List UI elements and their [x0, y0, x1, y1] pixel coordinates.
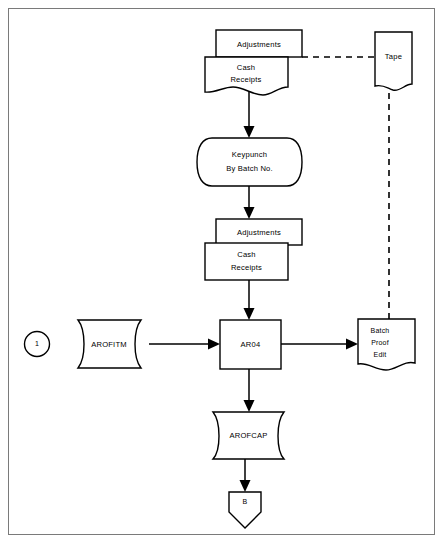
node-adjustments-top[interactable]: Adjustments	[216, 30, 302, 57]
node-label-ar04: AR04	[241, 340, 261, 349]
node-label-adjustments-mid: Adjustments	[237, 228, 281, 237]
edge-keypunch-to-adjustments	[244, 186, 255, 219]
flowchart-canvas: Adjustments Cash Receipts Tape Keypunch …	[0, 0, 445, 545]
edge-ar04-to-batch-proof-edit	[281, 339, 358, 350]
node-tape[interactable]: Tape	[375, 32, 412, 90]
node-label-batch-proof-edit-line1: Batch	[371, 327, 390, 334]
edge-ar04-to-arofcap	[244, 369, 255, 412]
node-label-batch-proof-edit-line3: Edit	[374, 351, 387, 358]
node-arofcap[interactable]: AROFCAP	[213, 412, 284, 459]
node-adjustments-mid[interactable]: Adjustments	[216, 219, 302, 245]
node-label-connector-b: B	[243, 498, 248, 505]
edge-arofcap-to-connector-b	[240, 459, 251, 492]
node-batch-proof-edit[interactable]: Batch Proof Edit	[358, 319, 415, 370]
edge-cash-receipts-to-ar04	[244, 280, 255, 320]
edge-arofitm-to-ar04	[149, 339, 220, 350]
node-label-cash-receipts-mid-line1: Cash	[237, 250, 256, 259]
node-arofitm[interactable]: AROFITM	[78, 320, 141, 368]
node-connector-1[interactable]: 1	[25, 332, 50, 357]
node-label-arofcap: AROFCAP	[229, 431, 267, 440]
node-label-cash-receipts-mid-line2: Receipts	[231, 263, 262, 272]
node-label-arofitm: AROFITM	[91, 340, 127, 349]
node-label-cash-receipts-top-line2: Receipts	[230, 75, 261, 84]
node-ar04[interactable]: AR04	[220, 320, 281, 369]
node-label-adjustments-top: Adjustments	[237, 40, 281, 49]
node-label-batch-proof-edit-line2: Proof	[371, 339, 389, 346]
node-cash-receipts-top[interactable]: Cash Receipts	[205, 57, 288, 95]
diagram-page: Adjustments Cash Receipts Tape Keypunch …	[0, 0, 445, 545]
node-label-keypunch-line2: By Batch No.	[226, 164, 273, 173]
node-label-keypunch-line1: Keypunch	[232, 150, 267, 159]
node-label-connector-1: 1	[35, 340, 39, 347]
node-label-tape: Tape	[385, 52, 402, 61]
node-cash-receipts-mid[interactable]: Cash Receipts	[205, 243, 288, 280]
node-keypunch[interactable]: Keypunch By Batch No.	[197, 138, 302, 186]
node-label-cash-receipts-top-line1: Cash	[237, 63, 256, 72]
node-connector-b[interactable]: B	[229, 492, 261, 528]
edge-cash-receipts-to-keypunch	[244, 92, 255, 138]
